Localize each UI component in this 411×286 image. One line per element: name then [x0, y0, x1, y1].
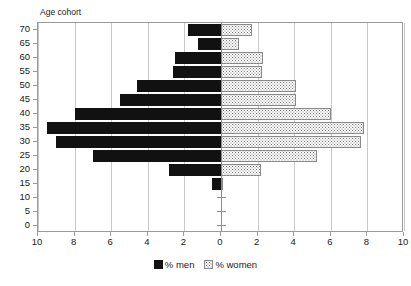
bar-women-20 — [221, 164, 261, 176]
bar-row — [38, 121, 402, 135]
gridline-x-10 — [404, 23, 405, 231]
y-axis-label-70: 70 — [4, 24, 30, 34]
bar-row — [38, 37, 402, 51]
y-axis-tick — [33, 71, 37, 72]
y-axis-tick — [33, 85, 37, 86]
x-axis-label: 4 — [134, 236, 160, 247]
y-axis-label-20: 20 — [4, 164, 30, 174]
bar-women-40 — [221, 108, 331, 120]
legend-swatch-women-icon — [204, 260, 213, 269]
x-axis-label: 2 — [170, 236, 196, 247]
y-axis-label-50: 50 — [4, 80, 30, 90]
bar-row — [38, 79, 402, 93]
legend-label-women: % women — [215, 259, 257, 270]
y-axis-label-45: 45 — [4, 94, 30, 104]
population-pyramid-chart: Age cohort % men % women 108642024681070… — [0, 0, 411, 286]
x-axis-label: 8 — [61, 236, 87, 247]
y-axis-tick — [33, 57, 37, 58]
bar-row — [38, 149, 402, 163]
x-axis-label: 10 — [390, 236, 411, 247]
y-axis-label-25: 25 — [4, 150, 30, 160]
bar-row — [38, 65, 402, 79]
x-axis-label: 0 — [207, 236, 233, 247]
x-axis-label: 6 — [317, 236, 343, 247]
plot-area — [37, 22, 403, 232]
y-axis-tick — [33, 113, 37, 114]
x-axis-label: 4 — [280, 236, 306, 247]
legend-swatch-men-icon — [154, 260, 163, 269]
bar-women-70 — [221, 24, 252, 36]
bar-women-30 — [221, 136, 361, 148]
bar-women-60 — [221, 52, 263, 64]
chart-legend: % men % women — [0, 259, 411, 270]
zero-tick-5 — [217, 211, 226, 212]
x-axis-label: 8 — [353, 236, 379, 247]
y-axis-tick — [33, 155, 37, 156]
bar-row — [38, 163, 402, 177]
bar-row — [38, 219, 402, 233]
legend-item-women: % women — [204, 259, 257, 270]
bar-women-15 — [221, 178, 223, 190]
y-axis-tick — [33, 225, 37, 226]
y-axis-label-0: 0 — [4, 220, 30, 230]
bar-row — [38, 177, 402, 191]
bar-row — [38, 191, 402, 205]
bar-row — [38, 135, 402, 149]
y-axis-tick — [33, 29, 37, 30]
bar-women-25 — [221, 150, 317, 162]
y-axis-label-55: 55 — [4, 66, 30, 76]
bar-men-30 — [56, 136, 221, 148]
bar-men-40 — [75, 108, 221, 120]
y-axis-label-30: 30 — [4, 136, 30, 146]
x-axis-label: 10 — [24, 236, 50, 247]
y-axis-label-60: 60 — [4, 52, 30, 62]
y-axis-tick — [33, 99, 37, 100]
y-axis-tick — [33, 211, 37, 212]
bar-men-70 — [188, 24, 221, 36]
x-axis-label: 2 — [244, 236, 270, 247]
bar-row — [38, 51, 402, 65]
legend-item-men: % men — [154, 259, 195, 270]
bar-men-60 — [175, 52, 221, 64]
y-axis-label-5: 5 — [4, 206, 30, 216]
axis-title-age-cohort: Age cohort — [40, 7, 81, 17]
bar-women-50 — [221, 80, 296, 92]
bar-women-65 — [221, 38, 239, 50]
bar-men-25 — [93, 150, 221, 162]
bar-row — [38, 93, 402, 107]
legend-label-men: % men — [165, 259, 195, 270]
x-axis-label: 6 — [97, 236, 123, 247]
bar-row — [38, 23, 402, 37]
zero-tick-10 — [217, 197, 226, 198]
bar-men-35 — [47, 122, 221, 134]
bar-row — [38, 107, 402, 121]
bar-women-45 — [221, 94, 296, 106]
bar-women-55 — [221, 66, 262, 78]
y-axis-label-65: 65 — [4, 38, 30, 48]
bar-men-20 — [169, 164, 221, 176]
y-axis-label-40: 40 — [4, 108, 30, 118]
bar-women-35 — [221, 122, 364, 134]
y-axis-tick — [33, 43, 37, 44]
bar-men-15 — [212, 178, 221, 190]
bar-men-50 — [137, 80, 221, 92]
y-axis-label-15: 15 — [4, 178, 30, 188]
y-axis-label-10: 10 — [4, 192, 30, 202]
y-axis-tick — [33, 169, 37, 170]
bar-men-55 — [173, 66, 221, 78]
y-axis-label-35: 35 — [4, 122, 30, 132]
y-axis-tick — [33, 183, 37, 184]
bar-row — [38, 205, 402, 219]
zero-tick-0 — [217, 225, 226, 226]
y-axis-tick — [33, 141, 37, 142]
y-axis-tick — [33, 197, 37, 198]
y-axis-tick — [33, 127, 37, 128]
bar-men-45 — [120, 94, 221, 106]
bar-men-65 — [198, 38, 221, 50]
